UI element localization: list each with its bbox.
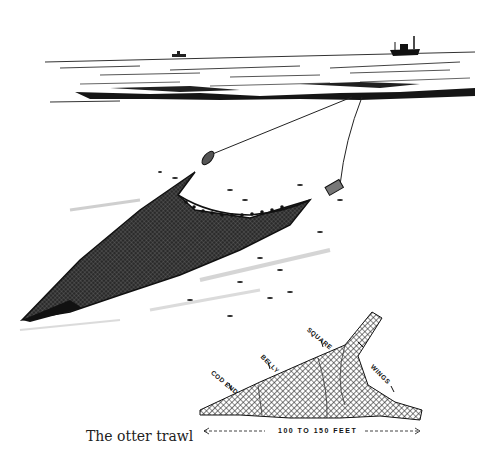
otter-board-left-icon <box>200 149 216 166</box>
otter-trawl-illustration: COD END BELLY SQUARE WINGS 100 TO 150 FE… <box>0 0 477 474</box>
trawl-net <box>22 172 310 322</box>
tow-cables <box>210 97 362 185</box>
trawler-ship-icon <box>390 36 420 56</box>
figure-caption: The otter trawl <box>86 428 193 444</box>
dimension-label: 100 TO 150 FEET <box>278 427 357 434</box>
sea-surface <box>45 52 475 102</box>
illustration-canvas <box>0 0 477 474</box>
otter-board-right-icon <box>325 180 343 196</box>
distant-ship-icon <box>172 51 186 57</box>
